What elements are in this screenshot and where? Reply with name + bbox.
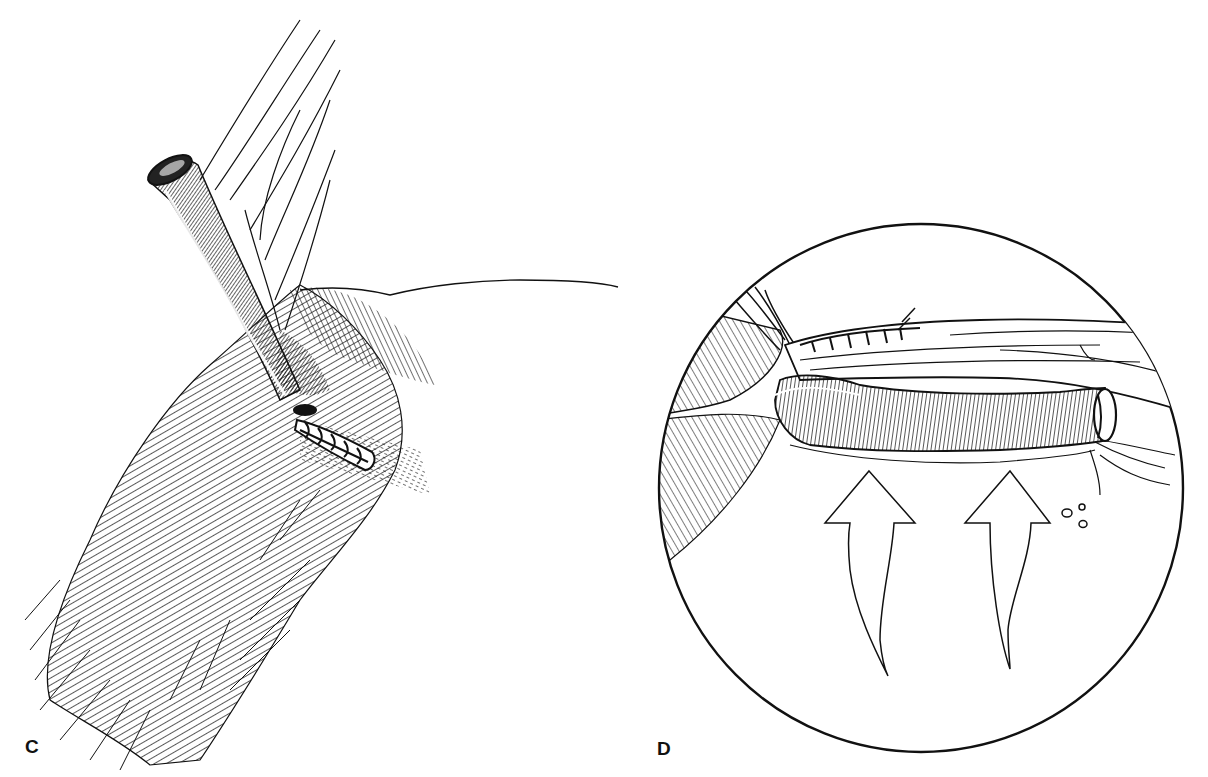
panel-label-c: C xyxy=(25,737,39,756)
muscle-mass xyxy=(47,285,435,765)
medical-illustration-figure: C xyxy=(0,0,1208,777)
panel-label-d: D xyxy=(657,739,671,758)
panel-d-drawing xyxy=(640,0,1208,777)
fascia-sheet xyxy=(300,280,618,295)
panel-c-drawing xyxy=(0,0,640,777)
entry-shadow xyxy=(293,404,317,416)
panel-c: C xyxy=(0,0,640,777)
panel-d: D xyxy=(640,0,1208,777)
vessel-opening xyxy=(1094,389,1116,441)
